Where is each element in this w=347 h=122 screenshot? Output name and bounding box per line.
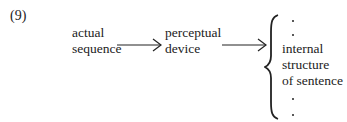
node-text-line: actual [72,25,121,41]
node-text-line: device [165,41,221,57]
ellipsis-dot [292,98,294,100]
ellipsis-dot [292,20,294,22]
node-internal-structure: internal structure of sentence [282,41,343,89]
node-text-line: sequence [72,41,121,57]
node-text-line: of sentence [282,73,343,89]
node-perceptual-device: perceptual device [165,25,221,57]
curly-brace-icon [264,14,280,120]
example-number: (9) [10,8,26,24]
arrow-right-icon [117,38,163,52]
node-text-line: internal [282,41,343,57]
node-actual-sequence: actual sequence [72,25,121,57]
ellipsis-dot [292,114,294,116]
node-text-line: perceptual [165,25,221,41]
ellipsis-dot [292,34,294,36]
arrow-right-icon [222,38,268,52]
node-text-line: structure [282,57,343,73]
